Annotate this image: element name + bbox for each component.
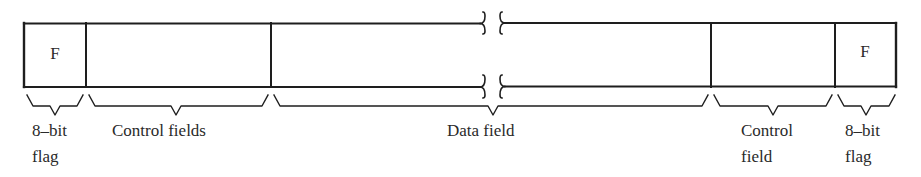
brace-control-fields [89,95,268,115]
brace-flag-end [838,95,895,115]
break-mark-top-right [500,12,505,34]
brace-flag-start [27,95,83,115]
brace-control-field-end [714,95,832,115]
brace-data-field [274,95,708,115]
break-mark-top-left [480,12,485,34]
flag-start-letter: F [45,44,65,64]
label-data-field: Data field [447,118,515,144]
label-control-fields: Control fields [112,118,206,144]
label-flag-end-line2: flag [845,144,871,170]
frame-format-diagram [0,0,921,177]
label-flag-end-line1: 8–bit [845,118,880,144]
label-control-field-line2: field [741,144,772,170]
break-mark-bottom-left [480,75,485,98]
label-control-field-line1: Control [741,118,793,144]
label-flag-start-line2: flag [32,144,58,170]
flag-end-letter: F [855,42,875,62]
break-mark-bottom-right [500,75,505,98]
label-flag-start-line1: 8–bit [32,118,67,144]
